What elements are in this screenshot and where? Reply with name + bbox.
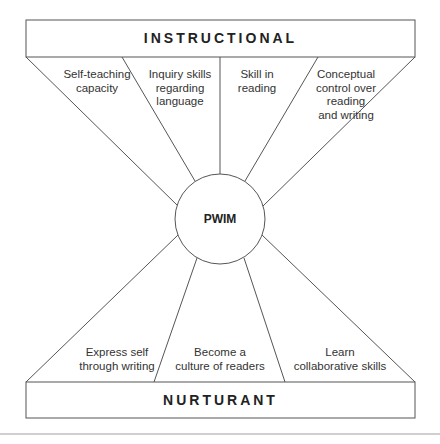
item-culture-of-readers: Become a culture of readers xyxy=(170,346,270,373)
item-express-self: Express self through writing xyxy=(72,346,162,373)
item-skill-in-reading: Skill in reading xyxy=(222,68,292,95)
pwim-label: PWIM xyxy=(190,212,250,226)
nurturant-title: NURTURANT xyxy=(26,392,415,408)
instructional-title: INSTRUCTIONAL xyxy=(26,30,415,46)
item-inquiry-skills: Inquiry skills regarding language xyxy=(135,68,225,109)
item-self-teaching-capacity: Self-teaching capacity xyxy=(52,68,142,95)
item-collaborative-skills: Learn collaborative skills xyxy=(285,346,395,373)
page-separator xyxy=(0,433,440,435)
item-conceptual-control: Conceptual control over reading and writ… xyxy=(300,68,392,122)
